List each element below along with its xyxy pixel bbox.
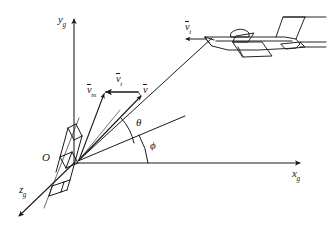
line-of-sight <box>78 38 212 161</box>
axis-label-z: zg <box>19 184 27 198</box>
vector-label-v-m: vm <box>87 85 97 98</box>
vector-label-v-t-aircraft: vt <box>185 22 192 35</box>
angle-label-phi: ϕ <box>150 140 156 151</box>
vector-v <box>79 96 141 160</box>
engagement-geometry-figure: yg xg zg O θ ϕ vm vt v vt <box>0 0 328 235</box>
diagram-canvas <box>0 0 328 235</box>
axis-label-y: yg <box>58 14 67 28</box>
aircraft-target <box>205 17 326 57</box>
vector-label-v: v <box>143 85 148 96</box>
angle-arc-phi <box>139 135 148 163</box>
angle-arc-theta <box>121 118 134 143</box>
vector-v-m <box>79 94 104 160</box>
angle-label-theta: θ <box>136 117 141 128</box>
reference-line-phi <box>78 116 185 161</box>
vector-label-v-t-triangle: vt <box>116 74 123 87</box>
axis-z <box>19 163 74 216</box>
axis-label-x: xg <box>292 168 301 182</box>
origin-label: O <box>42 152 50 163</box>
